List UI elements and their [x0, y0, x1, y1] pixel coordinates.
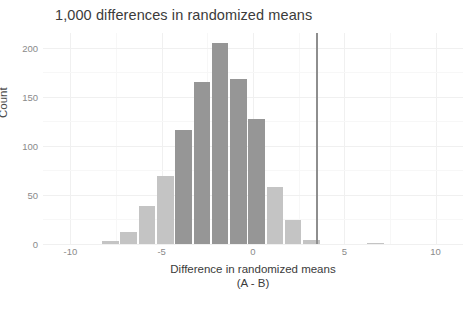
plot-panel [43, 33, 463, 244]
histogram-bar [285, 220, 302, 244]
histogram-bar [230, 79, 247, 244]
x-axis-title: Difference in randomized means (A - B) [43, 262, 463, 290]
histogram-bar [157, 176, 174, 244]
plot-area [43, 33, 463, 244]
histogram-bar [212, 43, 229, 244]
gridline-horizontal-major [43, 48, 463, 49]
gridline-vertical-minor [116, 33, 117, 244]
gridline-vertical-major [436, 33, 437, 244]
x-axis-tick-label: 5 [342, 246, 347, 257]
histogram-bar [120, 232, 137, 244]
gridline-vertical-major [344, 33, 345, 244]
x-axis-tick-label: -10 [64, 246, 78, 257]
chart-title: 1,000 differences in randomized means [55, 7, 312, 23]
y-axis-tick-label: 50 [27, 189, 38, 200]
histogram-bar [248, 119, 265, 244]
y-axis-tick-label: 0 [33, 239, 38, 250]
histogram-bar [267, 187, 284, 244]
gridline-vertical-minor [390, 33, 391, 244]
histogram-bar [194, 82, 211, 244]
gridline-vertical-minor [299, 33, 300, 244]
x-axis-title-line2: (A - B) [43, 276, 463, 290]
histogram-figure: 1,000 differences in randomized means Co… [0, 0, 474, 313]
gridline-horizontal-major [43, 244, 463, 245]
histogram-bar [367, 243, 384, 244]
x-axis-tick-label: 0 [250, 246, 255, 257]
y-axis-tick-labels: 050100150200 [0, 33, 38, 244]
y-axis-tick-label: 100 [22, 140, 38, 151]
histogram-bar [139, 206, 156, 244]
gridline-horizontal-major [43, 97, 463, 98]
y-axis-tick-label: 150 [22, 91, 38, 102]
gridline-vertical-major [70, 33, 71, 244]
histogram-bar [102, 241, 119, 244]
gridline-horizontal-minor [43, 72, 463, 73]
x-axis-tick-labels: -10-50510 [43, 246, 463, 260]
x-axis-tick-label: 10 [430, 246, 441, 257]
x-axis-title-line1: Difference in randomized means [170, 263, 335, 275]
x-axis-tick-label: -5 [157, 246, 165, 257]
y-axis-tick-label: 200 [22, 42, 38, 53]
histogram-bar [175, 130, 192, 244]
observed-difference-reference-line [316, 33, 318, 244]
